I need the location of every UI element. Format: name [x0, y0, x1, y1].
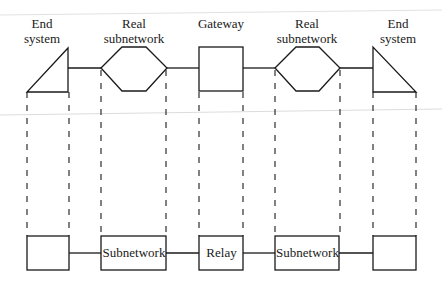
- real-subnetwork-right-hexagon: [275, 47, 340, 91]
- label-line: system: [368, 31, 428, 46]
- network-relay-diagram: End system Real subnetwork Gateway Real …: [0, 0, 442, 281]
- end-system-left-box: [27, 236, 69, 270]
- label-line: Gateway: [186, 16, 256, 31]
- label-line: Real: [267, 16, 347, 31]
- label-line: End: [12, 16, 72, 31]
- relay-label: Relay: [199, 236, 244, 270]
- end-system-right-triangle: [373, 47, 416, 92]
- label-end-system-right: End system: [368, 16, 428, 46]
- label-line: subnetwork: [267, 31, 347, 46]
- label-line: End: [368, 16, 428, 31]
- subnetwork-left-label: Subnetwork: [101, 236, 167, 270]
- label-real-subnetwork-right: Real subnetwork: [267, 16, 347, 46]
- label-end-system-left: End system: [12, 16, 72, 46]
- scan-line-top: [0, 10, 442, 15]
- label-real-subnetwork-left: Real subnetwork: [94, 16, 174, 46]
- label-gateway: Gateway: [186, 16, 256, 31]
- gateway-box: [199, 47, 243, 91]
- real-subnetwork-left-hexagon: [101, 47, 167, 91]
- end-system-left-triangle: [27, 48, 68, 92]
- label-line: Real: [94, 16, 174, 31]
- scan-line-middle: [0, 109, 442, 115]
- label-line: system: [12, 31, 72, 46]
- subnetwork-right-label: Subnetwork: [275, 236, 340, 270]
- label-line: subnetwork: [94, 31, 174, 46]
- end-system-right-box: [373, 236, 416, 270]
